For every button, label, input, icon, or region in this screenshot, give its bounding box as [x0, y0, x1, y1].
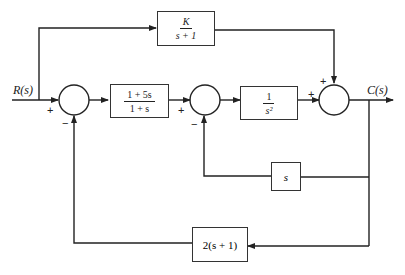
- sum3-plus-top-sign: +: [320, 75, 326, 87]
- outer-feedback-block: 2(s + 1): [192, 227, 248, 262]
- sum2-circle: [190, 85, 220, 115]
- controller-denominator: 1 + s: [127, 102, 153, 114]
- feedforward-numerator: K: [180, 16, 193, 29]
- output-label: C(s): [367, 84, 388, 96]
- sum3-plus-left-sign: +: [308, 88, 314, 100]
- sum2-plus-sign: +: [178, 104, 184, 116]
- plant-numerator: 1: [263, 91, 274, 104]
- plant-denominator: s²: [263, 104, 276, 116]
- plant-block: 1s²: [240, 86, 298, 120]
- input-label: R(s): [13, 84, 33, 96]
- feedforward-denominator: s + 1: [173, 29, 200, 41]
- feedforward-out-wire: [215, 30, 334, 83]
- sum2-minus-sign: −: [191, 118, 197, 130]
- sum1-plus-sign: +: [47, 104, 53, 116]
- controller-numerator: 1 + 5s: [124, 89, 155, 102]
- sum1-circle: [59, 85, 89, 115]
- sum3-circle: [319, 85, 349, 115]
- velocity-feedback-block: s: [271, 162, 301, 191]
- sum1-minus-sign: −: [62, 117, 68, 129]
- feedforward-block: Ks + 1: [157, 11, 215, 46]
- controller-block: 1 + 5s1 + s: [110, 84, 169, 118]
